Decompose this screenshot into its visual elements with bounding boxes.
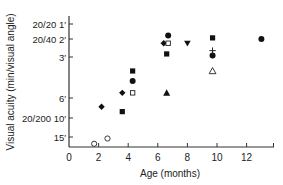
y-tick-label: 6′: [59, 93, 66, 104]
filled-inverted-triangle-marker: [184, 41, 191, 47]
x-tick-label: 6: [155, 152, 161, 163]
x-tick-label: 8: [185, 152, 191, 163]
x-axis-label: Age (months): [140, 168, 200, 179]
open-square-marker: [130, 91, 134, 95]
axes: [69, 16, 274, 147]
y-tick-label: 20/200 10′: [22, 113, 66, 124]
y-ticks: 20/20 1′20/40 2′3′6′20/200 10′15′: [22, 19, 73, 143]
y-axis-label: Visual acuity (min/visual angle): [5, 13, 16, 150]
x-ticks: 024681012: [66, 143, 273, 163]
y-tick-label: 3′: [59, 52, 66, 63]
x-tick-label: 0: [66, 152, 72, 163]
y-tick-label: 20/40 2′: [33, 34, 67, 45]
filled-circle-marker: [258, 36, 264, 42]
x-tick-label: 4: [125, 152, 131, 163]
filled-square-marker: [130, 68, 135, 73]
x-tick-label: 12: [241, 152, 253, 163]
filled-diamond-marker: [119, 90, 125, 96]
x-tick-label: 10: [211, 152, 223, 163]
chart-svg: 20/20 1′20/40 2′3′6′20/200 10′15′ 024681…: [0, 0, 283, 185]
open-square-marker: [166, 41, 170, 45]
filled-square-marker: [164, 51, 169, 56]
filled-triangle-marker: [163, 89, 170, 95]
filled-circle-marker: [130, 78, 136, 84]
data-points: [92, 32, 265, 146]
filled-square-marker: [120, 109, 125, 114]
open-triangle-marker: [209, 68, 216, 74]
filled-circle-marker: [165, 32, 171, 38]
y-tick-label: 20/20 1′: [33, 19, 67, 30]
filled-diamond-marker: [98, 104, 104, 110]
y-tick-label: 15′: [54, 132, 67, 143]
plus-marker: [209, 47, 215, 53]
open-circle-marker: [92, 141, 97, 146]
acuity-vs-age-chart: 20/20 1′20/40 2′3′6′20/200 10′15′ 024681…: [0, 0, 283, 185]
filled-square-marker: [210, 35, 215, 40]
x-tick-label: 2: [96, 152, 102, 163]
open-circle-marker: [105, 136, 110, 141]
